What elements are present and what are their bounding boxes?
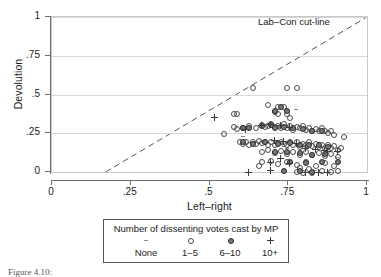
data-point-open-circle bbox=[234, 111, 240, 117]
figure-caption: Figure 4.10: bbox=[8, 267, 52, 277]
x-axis-title: Left–right bbox=[51, 200, 368, 212]
legend-dash-marker bbox=[144, 240, 148, 241]
data-point-dash bbox=[241, 136, 245, 137]
data-point-filled-circle bbox=[278, 104, 284, 110]
data-point-filled-circle bbox=[284, 149, 290, 155]
data-point-plus bbox=[267, 159, 274, 166]
data-point-plus bbox=[293, 140, 300, 147]
x-tick-label-0: 0 bbox=[31, 187, 71, 197]
x-tick-label-3: .75 bbox=[267, 187, 307, 197]
data-point-plus bbox=[324, 148, 331, 155]
legend-label-3: 10+ bbox=[247, 247, 293, 258]
data-point-open-circle bbox=[234, 126, 240, 132]
legend-marker-row bbox=[104, 236, 288, 247]
data-point-dash bbox=[294, 109, 298, 110]
data-point-filled-circle bbox=[319, 128, 325, 134]
data-point-plus bbox=[286, 124, 293, 131]
legend-plus-marker bbox=[267, 237, 274, 244]
data-point-plus bbox=[258, 122, 265, 129]
data-point-open-circle bbox=[221, 131, 227, 137]
cutline-annotation-label: Lab–Con cut-line bbox=[258, 16, 330, 27]
y-tick-label-3: .75 bbox=[0, 50, 50, 60]
y-tick-label-4: 1 bbox=[0, 11, 50, 21]
legend-title: Number of dissenting votes cast by MP bbox=[104, 223, 288, 234]
data-point-plus bbox=[277, 155, 284, 162]
data-point-plus bbox=[211, 114, 218, 121]
data-point-open-circle bbox=[335, 168, 341, 174]
y-tick-label-2: .5 bbox=[0, 89, 50, 99]
x-tick-3 bbox=[287, 180, 288, 185]
y-tick-label-0: 0 bbox=[0, 166, 50, 176]
data-point-filled-circle bbox=[300, 126, 306, 132]
x-axis-line bbox=[51, 180, 369, 181]
data-point-plus bbox=[324, 169, 331, 176]
data-point-filled-circle bbox=[281, 168, 287, 174]
data-point-open-circle bbox=[278, 148, 284, 154]
data-point-open-circle bbox=[294, 85, 300, 91]
data-point-open-circle bbox=[313, 163, 319, 169]
data-point-plus bbox=[334, 148, 341, 155]
x-tick-label-4: 1 bbox=[346, 187, 381, 197]
legend-label-0: None bbox=[123, 247, 169, 258]
gridline-y-2 bbox=[52, 95, 367, 96]
data-point-plus bbox=[286, 160, 293, 167]
y-tick-label-1: .25 bbox=[0, 127, 50, 137]
legend-filled-circle-marker bbox=[228, 238, 234, 244]
data-point-plus bbox=[280, 138, 287, 145]
data-point-filled-circle bbox=[272, 108, 278, 114]
legend-box: Number of dissenting votes cast by MP No… bbox=[103, 219, 289, 263]
data-point-plus bbox=[302, 145, 309, 152]
data-point-plus bbox=[242, 126, 249, 133]
data-point-filled-circle bbox=[250, 141, 256, 147]
data-point-plus bbox=[267, 121, 274, 128]
data-point-plus bbox=[267, 167, 274, 174]
data-point-open-circle bbox=[341, 134, 347, 140]
x-tick-1 bbox=[130, 180, 131, 185]
data-point-plus bbox=[277, 122, 284, 129]
x-tick-label-2: .5 bbox=[189, 187, 229, 197]
data-point-open-circle bbox=[250, 85, 256, 91]
plot-area bbox=[51, 16, 368, 173]
data-point-filled-circle bbox=[319, 159, 325, 165]
legend-open-circle-marker bbox=[188, 238, 194, 244]
data-point-plus bbox=[312, 146, 319, 153]
x-tick-label-1: .25 bbox=[110, 187, 150, 197]
x-tick-2 bbox=[209, 180, 210, 185]
data-point-plus bbox=[245, 169, 252, 176]
gridline-y-3 bbox=[52, 56, 367, 57]
x-tick-4 bbox=[366, 180, 367, 185]
data-point-plus bbox=[271, 137, 278, 144]
data-point-plus bbox=[302, 169, 309, 176]
x-tick-0 bbox=[51, 180, 52, 185]
legend-label-row: None1–56–1010+ bbox=[104, 247, 288, 259]
data-point-plus bbox=[315, 169, 322, 176]
